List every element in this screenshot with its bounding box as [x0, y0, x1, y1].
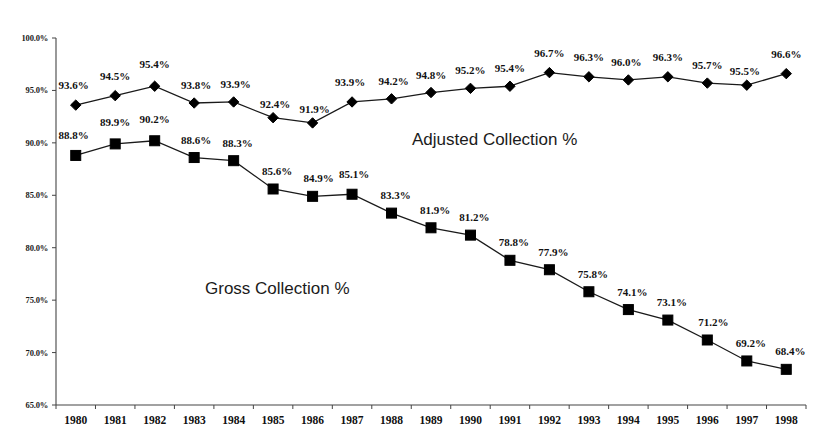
y-axis-tick-label: 80.0%	[0, 243, 48, 253]
y-axis-tick-label: 90.0%	[0, 138, 48, 148]
y-axis-tick-label: 100.0%	[0, 33, 48, 43]
series-annotation-adjusted: Adjusted Collection %	[412, 130, 577, 150]
x-axis-category-label: 1998	[761, 414, 811, 426]
y-axis-tick-label: 65.0%	[0, 400, 48, 410]
y-axis-tick-label: 95.0%	[0, 85, 48, 95]
adjusted-point-label: 94.5%	[90, 70, 140, 82]
gross-point-label: 73.1%	[647, 296, 697, 308]
gross-point-label: 88.8%	[49, 129, 99, 141]
series-annotation-gross: Gross Collection %	[205, 279, 350, 299]
adjusted-point-label: 95.4%	[130, 58, 180, 70]
gross-point-label: 83.3%	[371, 189, 421, 201]
collection-percentage-chart: 65.0%70.0%75.0%80.0%85.0%90.0%95.0%100.0…	[0, 0, 826, 448]
adjusted-point-label: 95.5%	[720, 65, 770, 77]
y-axis-tick-label: 70.0%	[0, 348, 48, 358]
adjusted-point-label: 91.9%	[290, 103, 340, 115]
gross-point-label: 71.2%	[688, 316, 738, 328]
gross-point-label: 77.9%	[528, 246, 578, 258]
gross-point-label: 85.1%	[329, 168, 379, 180]
adjusted-point-label: 95.4%	[485, 62, 535, 74]
gross-point-label: 88.3%	[213, 137, 263, 149]
gross-point-label: 68.4%	[765, 345, 815, 357]
gross-point-label: 90.2%	[130, 113, 180, 125]
y-axis-tick-label: 85.0%	[0, 190, 48, 200]
gross-point-label: 81.2%	[449, 211, 499, 223]
gross-point-label: 75.8%	[568, 268, 618, 280]
adjusted-point-label: 96.6%	[761, 48, 811, 60]
adjusted-point-label: 93.9%	[211, 78, 261, 90]
y-axis-tick-label: 75.0%	[0, 295, 48, 305]
